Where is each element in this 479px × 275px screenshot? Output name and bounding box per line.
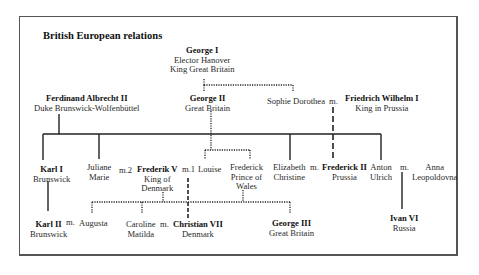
person-george-iii: George III Great Britain: [269, 219, 314, 238]
person-anton-ulrich: Anton Ulrich: [370, 163, 392, 182]
person-frederick-ii: Frederick II Prussia: [322, 163, 367, 182]
person-elizabeth-christine: Elizabeth Christine: [273, 163, 305, 182]
person-augusta: Augusta: [79, 219, 108, 229]
connector-lines: [0, 0, 479, 275]
person-frederik-v: Frederik V King of Denmark: [137, 165, 178, 194]
person-frederick-prince-of-wales: Frederick Prince of Wales: [230, 163, 263, 192]
marriage-label: m.2: [119, 166, 132, 176]
person-ivan-vi: Ivan VI Russia: [390, 214, 418, 233]
person-caroline-matilda: Caroline Matilda: [126, 220, 156, 239]
marriage-label: m.: [329, 97, 338, 107]
person-karl-i: Karl I Brunswick: [33, 165, 70, 184]
person-george-i: George I Elector Hanover King Great Brit…: [170, 46, 234, 75]
person-juliane-marie: Juliane Marie: [87, 163, 111, 182]
person-george-ii: George II Great Britain: [185, 94, 230, 113]
marriage-label: m.: [400, 163, 409, 173]
person-anna-leopoldovna: Anna Leopoldovna: [412, 163, 457, 182]
person-louise: Louise: [198, 165, 221, 175]
person-sophie-dorothea: Sophie Dorothea: [267, 97, 325, 107]
person-friedrich-wilhelm-i: Friedrich Wilhelm I King in Prussia: [345, 94, 419, 113]
marriage-label: m.: [310, 163, 319, 173]
person-karl-ii: Karl II Brunswick: [30, 220, 67, 239]
person-christian-vii: Christian VII Denmark: [173, 220, 223, 239]
diagram-title: British European relations: [43, 30, 162, 41]
marriage-label: m.1: [182, 165, 195, 175]
marriage-label: m.: [160, 220, 169, 230]
marriage-label: m.: [66, 218, 75, 228]
person-ferdinand-albrecht-ii: Ferdinand Albrecht II Duke Brunswick-Wol…: [34, 94, 140, 113]
